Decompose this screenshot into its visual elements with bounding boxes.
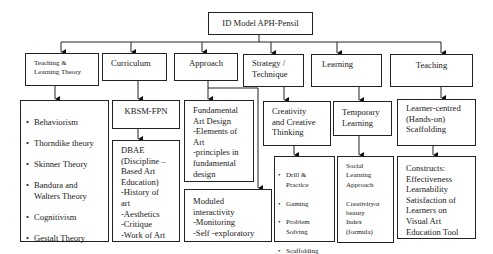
- node-teaching-learning-theory: Teaching & Learning Theory: [25, 53, 99, 86]
- node-learner-centred: Learner-centred (Hands-on) Scaffolding: [397, 99, 476, 146]
- node-constructs: Constructs: Effectiveness Learnability S…: [397, 156, 476, 239]
- node-approach: Approach: [174, 53, 238, 81]
- node-temporary-learning: Temporary Learning: [333, 101, 392, 136]
- node-label: Approach: [175, 58, 237, 69]
- node-label: KBSM-FPN: [113, 106, 179, 117]
- strategy-list: Drill & Practice Gaming Problem Solving …: [277, 162, 319, 254]
- node-label: Learning: [322, 59, 353, 70]
- node-dbae: DBAE (Discipline – Based Art Education) …: [112, 140, 180, 242]
- node-curriculum: Curriculum: [102, 53, 167, 81]
- strategy-list-box: Drill & Practice Gaming Problem Solving …: [274, 156, 335, 242]
- strategy-item: Gaming: [277, 200, 319, 209]
- node-label: Constructs: Effectiveness Learnability S…: [406, 163, 458, 237]
- theory-item: Skinner Theory: [25, 159, 94, 170]
- theory-item: Cognitivism: [25, 212, 94, 223]
- node-label: Creativity and Creative Thinking: [272, 106, 316, 138]
- node-label: Curriculum: [111, 58, 151, 69]
- node-strategy-technique: Strategy / Technique: [243, 54, 304, 87]
- node-label: Strategy / Technique: [252, 58, 288, 79]
- node-creativity-thinking: Creativity and Creative Thinking: [263, 101, 331, 146]
- node-fundamental-art-design: Fundamental Art Design -Elements of Art …: [184, 100, 254, 182]
- strategy-item: Scaffolding model: [277, 247, 319, 254]
- theory-item: Thorndike theory: [25, 138, 94, 149]
- theory-item: Behaviorism: [25, 117, 94, 128]
- theory-item: Bandura and Walters Theory: [25, 180, 94, 201]
- node-label: Temporary Learning: [342, 107, 380, 128]
- node-label: Teaching & Learning Theory: [34, 59, 81, 78]
- node-teaching: Teaching: [390, 54, 473, 87]
- strategy-item: Problem Solving: [277, 218, 319, 237]
- node-label: Social Learning Approach Creativityor be…: [346, 162, 380, 237]
- node-label: Teaching: [391, 60, 472, 71]
- theory-item: Gestalt Theory: [25, 233, 94, 244]
- node-learning: Learning: [311, 54, 382, 87]
- node-label: Fundamental Art Design -Elements of Art …: [193, 105, 239, 179]
- strategy-item: Drill & Practice: [277, 171, 319, 190]
- node-social-learning: Social Learning Approach Creativityor be…: [337, 156, 394, 243]
- root-label: ID Model APH-Pensil: [209, 18, 312, 29]
- theory-list-box: Behaviorism Thorndike theory Skinner The…: [20, 100, 109, 242]
- node-label: Learner-centred (Hands-on) Scaffolding: [406, 103, 461, 135]
- node-moduled-interactivity: Moduled interactivity -Monitoring -Self …: [184, 189, 272, 242]
- node-label: Moduled interactivity -Monitoring -Self …: [193, 196, 254, 238]
- theory-list: Behaviorism Thorndike theory Skinner The…: [25, 106, 94, 254]
- node-label: DBAE (Discipline – Based Art Education) …: [121, 145, 166, 240]
- root-node: ID Model APH-Pensil: [208, 12, 313, 35]
- node-kbsm-fpn: KBSM-FPN: [112, 100, 180, 129]
